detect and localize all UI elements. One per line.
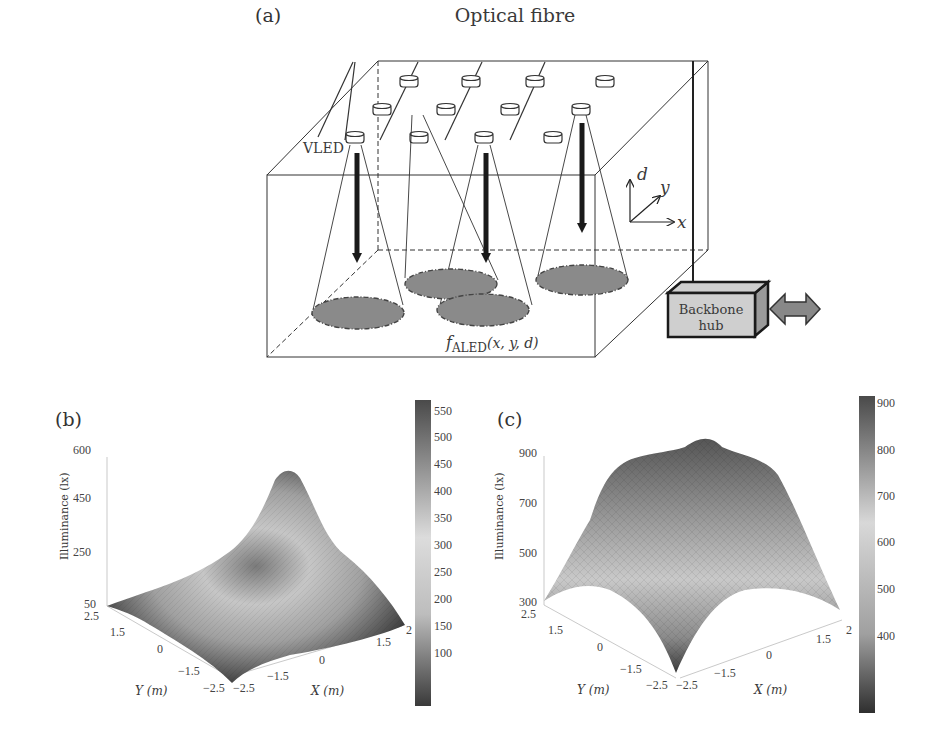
panel-c-xlabel: X (m) [753,683,787,697]
svg-text:800: 800 [877,443,895,457]
svg-text:700: 700 [877,489,895,503]
y-tick: 2.5 [521,607,536,621]
svg-text:600: 600 [877,535,895,549]
panel-c-colorbar-ticks: 900 800 700 600 500 400 [877,396,895,643]
y-tick: −2.5 [646,678,668,692]
z-tick: 700 [519,496,537,510]
panel-c-zlabel: Illuminance (lx) [493,472,506,560]
y-tick: 1.5 [548,623,563,637]
x-tick: −2.5 [676,678,698,692]
z-tick: 900 [519,446,537,460]
svg-text:400: 400 [877,629,895,643]
svg-text:900: 900 [877,396,895,410]
x-tick: 2 [846,623,852,637]
y-tick: −1.5 [620,662,642,676]
x-tick: 0 [766,648,772,662]
z-tick: 500 [519,546,537,560]
x-tick: 1.5 [816,632,831,646]
svg-text:500: 500 [877,582,895,596]
panel-c-ylabel: Y (m) [577,683,610,697]
x-tick: −1.5 [714,666,736,680]
y-tick: 0 [597,640,603,654]
panel-c-labels: 900 700 500 300 Illuminance (lx) 2.5 1.5… [0,0,940,729]
